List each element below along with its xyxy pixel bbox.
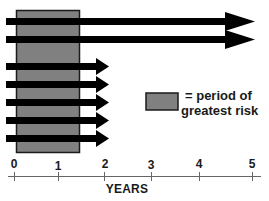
tick-label-1: 1 [55, 160, 62, 172]
legend-label-line2: greatest risk [181, 103, 258, 119]
tick-label-4: 4 [196, 158, 203, 170]
legend-swatch [146, 93, 178, 110]
tick-label-0: 0 [11, 158, 18, 170]
tick-label-5: 5 [249, 158, 256, 170]
risk-timeline-diagram: = period of greatest risk 0 1 2 3 4 5 YE… [0, 0, 269, 201]
axis-title: YEARS [106, 183, 148, 195]
tick-label-3: 3 [148, 159, 155, 171]
x-axis [8, 172, 261, 181]
tick-label-2: 2 [102, 158, 109, 170]
legend-label-line1: = period of [185, 88, 252, 104]
